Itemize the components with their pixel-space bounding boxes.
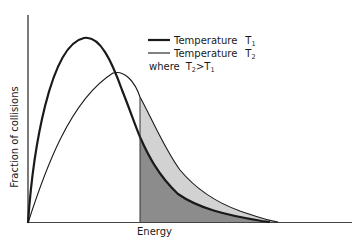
legend-condition: whereT2>T1 [149, 61, 215, 74]
legend-label-t1: TemperatureT1 [173, 35, 256, 48]
y-axis-label: Fraction of collisions [9, 86, 20, 188]
legend-label-t2: TemperatureT2 [173, 48, 256, 61]
x-axis-label: Energy [137, 226, 172, 237]
maxwell-boltzmann-chart: TemperatureT1 TemperatureT2 whereT2>T1 E… [0, 0, 364, 249]
